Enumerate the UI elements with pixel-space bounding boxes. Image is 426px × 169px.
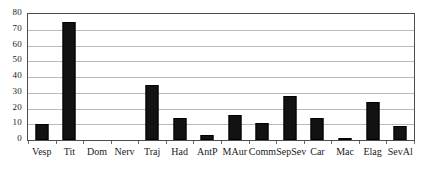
bar bbox=[311, 118, 324, 140]
x-axis-category-label: Had bbox=[166, 145, 194, 158]
x-axis-tick bbox=[28, 141, 29, 144]
bar bbox=[228, 115, 241, 140]
y-axis-tick-label: 0 bbox=[0, 134, 22, 143]
bar-slot bbox=[111, 14, 139, 140]
bar-slot bbox=[386, 14, 414, 140]
x-axis-tick bbox=[414, 141, 415, 144]
bar-slot bbox=[56, 14, 84, 140]
bar-slot bbox=[193, 14, 221, 140]
x-axis-category-label: MAur bbox=[221, 145, 249, 158]
x-axis-tick bbox=[249, 141, 250, 144]
bar-slot bbox=[359, 14, 387, 140]
x-axis-tick bbox=[138, 141, 139, 144]
bar-slot bbox=[138, 14, 166, 140]
bar bbox=[366, 102, 379, 140]
x-axis-tick bbox=[331, 141, 332, 144]
x-axis-category-label: Mac bbox=[331, 145, 359, 158]
x-axis-tick bbox=[193, 141, 194, 144]
x-axis-category-label: Elag bbox=[359, 145, 387, 158]
y-axis-tick-label: 80 bbox=[0, 8, 22, 17]
bar-slot bbox=[304, 14, 332, 140]
bar bbox=[146, 85, 159, 140]
bar-slot bbox=[221, 14, 249, 140]
x-axis-tick bbox=[276, 141, 277, 144]
y-axis-tick-label: 30 bbox=[0, 87, 22, 96]
y-axis-tick-label: 50 bbox=[0, 55, 22, 64]
bar bbox=[63, 22, 76, 140]
bar-slot bbox=[166, 14, 194, 140]
x-axis-category-label: SepSev bbox=[276, 145, 304, 158]
x-axis-category-label: Dom bbox=[83, 145, 111, 158]
x-axis-category-label: Traj bbox=[138, 145, 166, 158]
bars-container bbox=[28, 14, 414, 140]
y-axis-tick-label: 70 bbox=[0, 24, 22, 33]
bar bbox=[256, 123, 269, 140]
bar-slot bbox=[249, 14, 277, 140]
x-axis-labels: VespTitDomNervTrajHadAntPMAurCommSepSevC… bbox=[28, 145, 414, 165]
bar bbox=[35, 124, 48, 140]
x-axis-category-label: Vesp bbox=[28, 145, 56, 158]
x-axis-tick bbox=[111, 141, 112, 144]
x-axis-category-label: Nerv bbox=[111, 145, 139, 158]
x-axis-tick bbox=[386, 141, 387, 144]
x-axis-category-label: Tit bbox=[56, 145, 84, 158]
y-axis-tick-label: 40 bbox=[0, 71, 22, 80]
x-axis-category-label: AntP bbox=[193, 145, 221, 158]
x-axis-tick bbox=[166, 141, 167, 144]
x-axis-tick bbox=[304, 141, 305, 144]
bar-chart: 01020304050607080 VespTitDomNervTrajHadA… bbox=[0, 0, 426, 169]
y-axis-tick-label: 60 bbox=[0, 40, 22, 49]
bar bbox=[173, 118, 186, 140]
bar bbox=[339, 138, 352, 140]
x-axis-tick bbox=[221, 141, 222, 144]
y-axis-tick-label: 20 bbox=[0, 103, 22, 112]
bar-slot bbox=[331, 14, 359, 140]
x-axis-tick bbox=[56, 141, 57, 144]
bar-slot bbox=[276, 14, 304, 140]
y-axis-tick-label: 10 bbox=[0, 118, 22, 127]
bar-slot bbox=[83, 14, 111, 140]
bar bbox=[394, 126, 407, 140]
x-axis-tick bbox=[359, 141, 360, 144]
bar bbox=[201, 135, 214, 140]
x-axis-category-label: SevAl bbox=[386, 145, 414, 158]
bar bbox=[283, 96, 296, 140]
x-axis-category-label: Comm bbox=[249, 145, 277, 158]
x-axis-category-label: Car bbox=[304, 145, 332, 158]
bar-slot bbox=[28, 14, 56, 140]
x-axis-tick bbox=[83, 141, 84, 144]
